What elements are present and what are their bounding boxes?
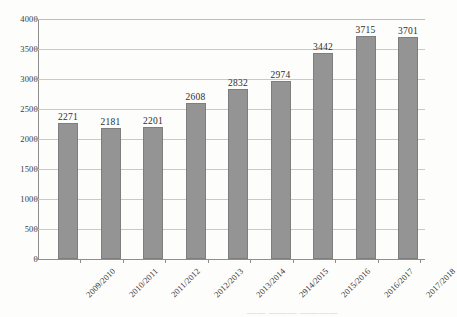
x-tick-mark bbox=[293, 259, 294, 263]
bar: 2271 bbox=[58, 123, 78, 259]
x-axis-label: 2013/2014 bbox=[254, 266, 287, 299]
bar: 2974 bbox=[271, 81, 291, 259]
y-tick-label: 3500 bbox=[4, 44, 38, 54]
x-tick-mark bbox=[165, 259, 166, 263]
y-tick-label: 4000 bbox=[4, 14, 38, 24]
x-axis-label: 2009/2010 bbox=[84, 266, 117, 299]
x-axis-label: 2016/2017 bbox=[381, 266, 414, 299]
gridline bbox=[38, 19, 425, 20]
y-tick-label: 0 bbox=[4, 254, 38, 264]
bar-value-label: 2608 bbox=[186, 92, 206, 102]
bar: 2608 bbox=[186, 103, 206, 260]
x-axis-label: 2011/2012 bbox=[169, 266, 202, 299]
x-tick-mark bbox=[378, 259, 379, 263]
y-tick-label: 3000 bbox=[4, 74, 38, 84]
bar: 2832 bbox=[228, 89, 248, 259]
x-tick-mark bbox=[335, 259, 336, 263]
x-axis-label: 2017/2018 bbox=[424, 266, 457, 299]
x-axis-label: 2015/2016 bbox=[339, 266, 372, 299]
x-axis-label: 2012/2013 bbox=[211, 266, 244, 299]
y-tick-label: 2000 bbox=[4, 134, 38, 144]
x-tick-mark bbox=[208, 259, 209, 263]
figure-caption: —— ——— ———— bbox=[247, 307, 338, 317]
bar: 3701 bbox=[398, 37, 418, 259]
bar-value-label: 2832 bbox=[228, 78, 248, 88]
x-tick-mark bbox=[250, 259, 251, 263]
x-axis-label: 2914/2015 bbox=[296, 266, 329, 299]
bar-value-label: 2201 bbox=[143, 116, 163, 126]
y-axis: 4000 3500 3000 2500 2000 1500 1000 500 0 bbox=[0, 0, 38, 317]
x-tick-mark bbox=[80, 259, 81, 263]
y-tick-label: 1500 bbox=[4, 164, 38, 174]
bar-value-label: 2974 bbox=[271, 70, 291, 80]
plot-area: 2271 2181 2201 2608 2832 2974 3442 3715 … bbox=[38, 19, 425, 259]
bar: 3715 bbox=[356, 36, 376, 259]
x-axis-line bbox=[38, 259, 425, 260]
y-tick-label: 500 bbox=[4, 224, 38, 234]
bar: 3442 bbox=[313, 53, 333, 260]
bar-value-label: 3701 bbox=[398, 26, 418, 36]
bar: 2181 bbox=[101, 128, 121, 259]
bar-value-label: 2181 bbox=[101, 117, 121, 127]
bar-value-label: 2271 bbox=[58, 112, 78, 122]
bar-value-label: 3442 bbox=[313, 42, 333, 52]
bar: 2201 bbox=[143, 127, 163, 259]
x-tick-mark bbox=[420, 259, 421, 263]
y-tick-label: 2500 bbox=[4, 104, 38, 114]
y-tick-label: 1000 bbox=[4, 194, 38, 204]
x-axis-label: 2010/2011 bbox=[126, 266, 159, 299]
x-tick-mark bbox=[123, 259, 124, 263]
bar-value-label: 3715 bbox=[356, 25, 376, 35]
